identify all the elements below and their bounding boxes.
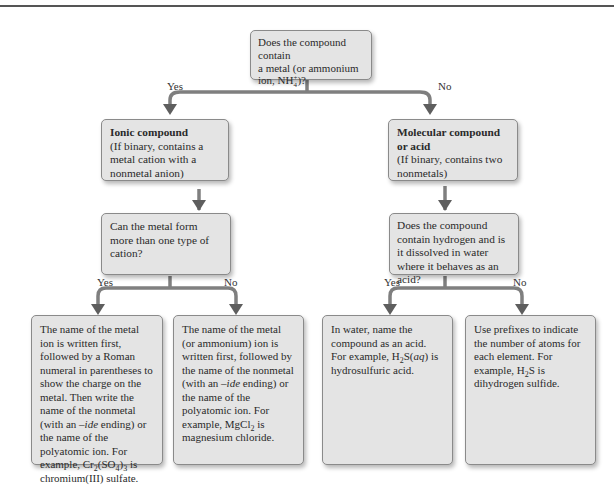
root-question-line2: a metal (or ammonium (258, 62, 359, 74)
molecular-compound-desc: (If binary, contains two nonmetals) (397, 153, 502, 179)
ionic-compound-title: Ionic compound (110, 126, 188, 138)
cation-no-connector (170, 288, 236, 306)
root-yes-connector (170, 92, 307, 106)
arrowhead-acid-leaf (383, 304, 397, 315)
root-question-end: )? (297, 74, 306, 86)
leaf-acid-text-b: S( (404, 350, 414, 362)
cation-yes-connector (98, 288, 170, 306)
cation-no-label: No (224, 276, 237, 288)
root-yes-label: Yes (167, 80, 183, 92)
leaf-acid-node: In water, name the compound as an acid. … (322, 315, 453, 465)
ide-suffix: –ide (79, 418, 98, 430)
ionic-compound-desc: (If binary, contains a metal cation with… (110, 140, 203, 179)
acid-no-connector (445, 288, 522, 306)
arrowhead-multi-cation (91, 304, 105, 315)
leaf-multi-cation-text-c: (SO (98, 458, 116, 470)
leaf-multi-cation-node: The name of the metal ion is written fir… (31, 315, 163, 465)
acid-yes-label: Yes (384, 276, 400, 288)
cation-yes-label: Yes (97, 276, 113, 288)
cation-question-text: Can the metal form more than one type of… (110, 220, 209, 259)
root-question-node: Does the compound contain a metal (or am… (250, 30, 372, 80)
arrowhead-single-cation (229, 304, 243, 315)
root-no-connector (307, 92, 430, 106)
acid-yes-connector (390, 288, 445, 306)
root-question-line3: ion, NH (258, 74, 293, 86)
leaf-multi-cation-text: The name of the metal ion is written fir… (40, 323, 153, 430)
molecular-compound-title: Molecular compound or acid (397, 126, 500, 152)
arrowhead-cation-question (192, 200, 206, 211)
acid-no-label: No (513, 276, 526, 288)
molecular-compound-node: Molecular compound or acid (If binary, c… (388, 119, 518, 181)
arrowhead-acid-question (438, 200, 452, 211)
ide-suffix: –ide (221, 377, 240, 389)
arrowhead-molecular-leaf (515, 304, 529, 315)
aqueous-state: aq (414, 350, 425, 362)
acid-question-node: Does the compound contain hydrogen and i… (389, 213, 519, 275)
root-no-label: No (438, 80, 451, 92)
arrowhead-molecular (423, 104, 437, 115)
root-question-line1: Does the compound contain (258, 36, 346, 61)
leaf-molecular-text: Use prefixes to indicate the number of a… (474, 323, 580, 376)
leaf-molecular-node: Use prefixes to indicate the number of a… (465, 315, 596, 465)
cation-question-node: Can the metal form more than one type of… (101, 213, 231, 275)
arrowhead-ionic (163, 104, 177, 115)
leaf-single-cation-node: The name of the metal (or ammonium) ion … (173, 315, 304, 465)
ionic-compound-node: Ionic compound (If binary, contains a me… (101, 119, 229, 181)
